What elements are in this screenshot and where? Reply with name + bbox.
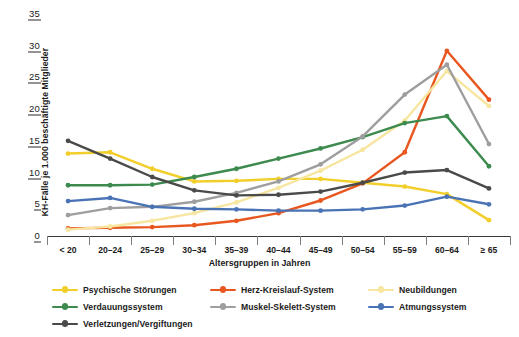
legend-item[interactable]: Psychische Störungen — [52, 285, 210, 295]
legend-item[interactable]: Atmungssystem — [368, 302, 492, 312]
data-point — [234, 193, 239, 198]
data-point — [192, 211, 197, 216]
x-tick-mark — [426, 236, 427, 245]
data-point — [192, 175, 197, 180]
plot-area: 05101520253035 KH-Fälle je 1.000 beschäf… — [47, 14, 510, 236]
data-point — [66, 213, 71, 218]
data-point — [108, 150, 113, 155]
y-tick-label: 20 — [17, 103, 41, 116]
legend-swatch-icon — [210, 285, 236, 294]
data-point — [360, 180, 365, 185]
chart-legend: Psychische StörungenHerz-Kreislauf-Syste… — [52, 281, 492, 332]
legend-item[interactable]: Neubildungen — [368, 285, 492, 295]
x-tick-label: 40–44 — [267, 245, 291, 255]
data-point — [192, 179, 197, 184]
data-point — [66, 199, 71, 204]
data-point — [192, 199, 197, 204]
data-point — [360, 147, 365, 152]
x-tick-mark — [173, 236, 174, 245]
legend-swatch-icon — [368, 285, 394, 294]
data-point — [276, 156, 281, 161]
series-herz-kreislauf-system — [66, 48, 492, 230]
data-point — [360, 134, 365, 139]
data-point — [444, 114, 449, 119]
legend-item[interactable]: Verdauungssystem — [52, 302, 210, 312]
data-point — [318, 177, 323, 182]
x-tick-label: 20–24 — [98, 245, 122, 255]
y-tick-label: 5 — [17, 198, 41, 211]
x-tick-label: 30–34 — [182, 245, 206, 255]
data-point — [318, 189, 323, 194]
data-point — [108, 206, 113, 211]
data-point — [150, 204, 155, 209]
data-point — [234, 218, 239, 223]
legend-swatch-icon — [210, 302, 236, 311]
legend-label: Muskel-Skelett-System — [241, 302, 336, 312]
x-tick-mark — [131, 236, 132, 245]
data-point — [66, 151, 71, 156]
x-tick-mark — [384, 236, 385, 245]
data-point — [276, 192, 281, 197]
legend-label: Psychische Störungen — [83, 285, 177, 295]
x-tick-label: 55–59 — [393, 245, 417, 255]
data-point — [234, 178, 239, 183]
x-tick-label: 25–29 — [140, 245, 164, 255]
data-point — [487, 104, 492, 109]
x-tick-label: 45–49 — [309, 245, 333, 255]
legend-label: Verletzungen/Vergiftungen — [83, 319, 193, 329]
x-axis-title: Altersgruppen in Jahren — [0, 258, 519, 268]
data-point — [402, 150, 407, 155]
x-tick-mark — [510, 236, 511, 245]
data-point — [234, 200, 239, 205]
y-tick-label: 0 — [17, 230, 41, 243]
data-point — [487, 186, 492, 191]
data-point — [108, 196, 113, 201]
data-point — [150, 218, 155, 223]
chart-root: 05101520253035 KH-Fälle je 1.000 beschäf… — [0, 0, 519, 337]
x-tick-label: ≥ 65 — [481, 245, 498, 255]
legend-label: Verdauungssystem — [83, 302, 163, 312]
data-point — [487, 218, 492, 223]
data-point — [192, 206, 197, 211]
x-axis-baseline — [47, 236, 510, 237]
legend-swatch-icon — [52, 319, 78, 328]
y-tick-label: 35 — [17, 8, 41, 21]
data-point — [276, 179, 281, 184]
x-tick-mark — [47, 236, 48, 245]
line-chart-svg — [47, 14, 510, 236]
x-tick-mark — [89, 236, 90, 245]
x-tick-label: 35–39 — [224, 245, 248, 255]
legend-label: Neubildungen — [399, 285, 457, 295]
data-point — [150, 166, 155, 171]
data-point — [108, 224, 113, 229]
data-point — [444, 194, 449, 199]
legend-item[interactable]: Muskel-Skelett-System — [210, 302, 368, 312]
data-point — [234, 166, 239, 171]
y-tick-label: 15 — [17, 134, 41, 147]
data-point — [276, 208, 281, 213]
x-axis: < 2020–2425–2930–3435–3940–4445–4950–545… — [47, 236, 510, 256]
data-point — [276, 185, 281, 190]
data-point — [360, 207, 365, 212]
x-tick-mark — [468, 236, 469, 245]
data-point — [66, 183, 71, 188]
data-point — [150, 225, 155, 230]
series-line — [68, 71, 489, 230]
legend-item[interactable]: Herz-Kreislauf-System — [210, 285, 368, 295]
data-point — [402, 92, 407, 97]
x-tick-label: < 20 — [60, 245, 77, 255]
data-point — [487, 142, 492, 147]
x-tick-label: 60–64 — [435, 245, 459, 255]
data-point — [402, 170, 407, 175]
x-tick-mark — [215, 236, 216, 245]
y-tick-label: 25 — [17, 71, 41, 84]
data-point — [444, 62, 449, 67]
x-tick-mark — [342, 236, 343, 245]
legend-item[interactable]: Verletzungen/Vergiftungen — [52, 319, 210, 329]
data-point — [318, 208, 323, 213]
data-point — [192, 188, 197, 193]
legend-swatch-icon — [368, 302, 394, 311]
data-point — [402, 121, 407, 126]
series-line — [68, 116, 489, 185]
data-point — [318, 198, 323, 203]
